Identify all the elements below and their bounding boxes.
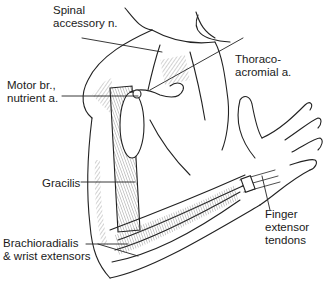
label-gracilis: Gracilis (42, 177, 80, 190)
label-spinal-accessory-nerve: Spinal accessory n. (53, 4, 118, 30)
label-brachioradialis: Brachioradialis & wrist extensors (3, 237, 91, 263)
label-thoracoacromial-artery: Thoraco- acromial a. (235, 53, 291, 79)
hand-outline (238, 97, 262, 158)
label-motor-branch: Motor br., nutrient a. (7, 79, 58, 105)
torso-outline (215, 42, 229, 150)
leader-finger-extensor (262, 176, 270, 210)
neck-outline (125, 8, 152, 30)
leader-spinal-accessory (82, 38, 162, 52)
label-finger-extensor-tendons: Finger extensor tendons (265, 208, 309, 247)
